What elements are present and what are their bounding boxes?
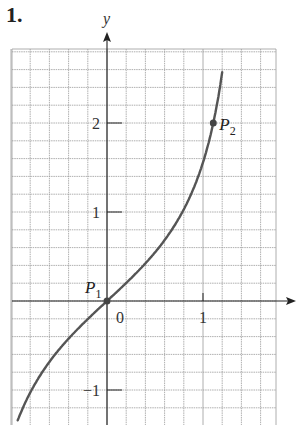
x-tick-label: 0 (116, 309, 124, 326)
curve (18, 72, 223, 420)
y-tick-label: 1 (92, 204, 100, 221)
svg-text:P2: P2 (218, 115, 235, 138)
grid (11, 49, 276, 425)
y-tick-label: −1 (83, 382, 100, 399)
axes (12, 32, 296, 425)
axis-labels: y−11201 (83, 10, 207, 399)
svg-text:P1: P1 (84, 278, 101, 301)
x-tick-label: 1 (199, 309, 207, 326)
y-axis-label: y (101, 10, 111, 28)
y-tick-label: 2 (92, 115, 100, 132)
tangent-graph: P1P2 y−11201 (0, 0, 300, 425)
